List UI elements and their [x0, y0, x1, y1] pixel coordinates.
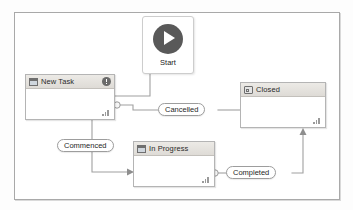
state-node-in-progress[interactable]: In Progress	[133, 141, 215, 187]
node-body	[241, 97, 325, 127]
diagram-canvas: Start New Task Closed In Progress	[0, 0, 353, 210]
resize-grip-icon[interactable]	[202, 176, 210, 183]
state-node-new-task[interactable]: New Task	[25, 74, 115, 120]
node-label: Closed	[256, 85, 280, 94]
transition-label-commenced[interactable]: Commenced	[57, 139, 114, 152]
node-body	[134, 156, 214, 186]
play-circle-icon	[153, 24, 183, 54]
state-node-closed[interactable]: Closed	[240, 82, 326, 128]
transition-label-completed[interactable]: Completed	[226, 166, 276, 179]
node-label: New Task	[41, 77, 74, 86]
node-title-bar: In Progress	[134, 142, 214, 156]
node-label: In Progress	[149, 144, 188, 153]
start-node-label: Start	[160, 58, 176, 67]
resize-grip-icon[interactable]	[313, 117, 321, 124]
node-title-bar: New Task	[26, 75, 114, 89]
warning-exclamation-icon[interactable]	[102, 77, 111, 86]
closed-box-icon	[244, 86, 253, 94]
transition-label-cancelled[interactable]: Cancelled	[158, 103, 205, 116]
start-node[interactable]: Start	[142, 16, 194, 74]
resize-grip-icon[interactable]	[102, 109, 110, 116]
window-icon	[137, 145, 146, 153]
node-body	[26, 89, 114, 119]
window-icon	[29, 78, 38, 86]
node-title-bar: Closed	[241, 83, 325, 97]
